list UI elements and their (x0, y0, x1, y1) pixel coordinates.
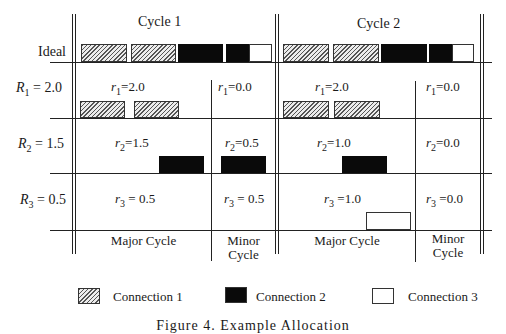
c2-major-cycle-label: Major Cycle (279, 234, 415, 248)
r3-c2-major-conn3-bar (366, 212, 411, 230)
r1-symbol: R (16, 80, 25, 95)
figure-caption: Figure 4. Example Allocation (0, 318, 506, 334)
row-label-r2: R2 = 1.5 (18, 136, 64, 153)
r1-value: = 2.0 (30, 80, 62, 95)
c1-minor-r1-label: r1=0.0 (218, 80, 252, 95)
legend-connection2-label: Connection 2 (256, 289, 326, 305)
c1-minor-r3-label: r3 = 0.5 (224, 192, 264, 207)
c1-major-r2-label: r2=1.5 (115, 136, 149, 151)
c2-minor-r3-label: r3 =0.0 (426, 192, 463, 207)
legend-connection1-label: Connection 1 (113, 289, 183, 305)
cycle1-header: Cycle 1 (138, 14, 181, 30)
ideal-c2-conn1-bar-2 (333, 44, 379, 62)
r2-value: = 1.5 (32, 136, 64, 151)
c1-minor-r2-label: r2=0.5 (225, 136, 259, 151)
ideal-c2-conn2-bar-2 (429, 44, 452, 62)
r3-symbol: R (20, 192, 29, 207)
ideal-c1-conn1-bar-1 (81, 44, 127, 62)
r2-c1-major-conn2-bar (159, 156, 204, 173)
legend-connection3-label: Connection 3 (408, 289, 478, 305)
legend-connection3-swatch (372, 288, 394, 304)
c2-major-r3-label: r3 =1.0 (324, 192, 361, 207)
ideal-c2-conn3-bar (452, 44, 474, 62)
r1-c1-conn1-bar-1 (80, 101, 125, 118)
r3-value: = 0.5 (34, 192, 66, 207)
ideal-c2-conn2-bar-1 (381, 44, 427, 62)
row-label-r3: R3 = 0.5 (20, 192, 66, 209)
left-border-line-b (75, 14, 76, 254)
row-label-r1: R1 = 2.0 (16, 80, 62, 97)
c1-major-r1-label: r1=2.0 (111, 80, 145, 95)
c1-minor-cycle-label: MinorCycle (212, 234, 275, 262)
legend-connection1-swatch (78, 288, 100, 304)
r2-subscript: 2 (27, 143, 32, 154)
r2-c1-minor-conn2-bar (221, 156, 266, 173)
right-border-line-b (483, 14, 484, 254)
ideal-c1-conn3-bar (249, 44, 272, 62)
c2-minor-r1-label: r1=0.0 (426, 80, 460, 95)
right-border-line-a (480, 14, 481, 254)
r1-c2-conn1-bar-1 (283, 101, 329, 118)
left-border-line-a (72, 14, 73, 254)
cycle-divider-line-b (278, 14, 279, 254)
cycle-divider-line-a (275, 14, 276, 254)
row-label-ideal: Ideal (38, 44, 66, 60)
c1-major-cycle-label: Major Cycle (76, 234, 211, 248)
row-line-r1 (50, 118, 492, 119)
r1-c2-conn1-bar-2 (334, 101, 380, 118)
r3-subscript: 3 (29, 199, 34, 210)
c2-major-r1-label: r1=2.0 (315, 80, 349, 95)
row-line-r3 (50, 230, 492, 231)
c1-major-r3-label: r3 = 0.5 (115, 192, 155, 207)
cycle2-header: Cycle 2 (357, 16, 400, 32)
r2-symbol: R (18, 136, 27, 151)
r1-subscript: 1 (25, 87, 30, 98)
ideal-c1-conn2-bar-1 (178, 44, 223, 62)
r1-c1-conn1-bar-2 (134, 101, 179, 118)
row-line-ideal (50, 62, 492, 63)
legend-connection2-swatch (225, 287, 247, 303)
c2-major-r2-label: r2=1.0 (317, 136, 351, 151)
c2-minor-cycle-label: MinorCycle (416, 232, 480, 260)
ideal-c1-conn1-bar-2 (131, 44, 176, 62)
ideal-c2-conn1-bar-1 (283, 44, 329, 62)
r2-c2-major-conn2-bar (342, 156, 387, 173)
ideal-c1-conn2-bar-2 (226, 44, 249, 62)
c2-minor-r2-label: r2=0.0 (426, 136, 460, 151)
row-line-r2 (50, 173, 492, 174)
